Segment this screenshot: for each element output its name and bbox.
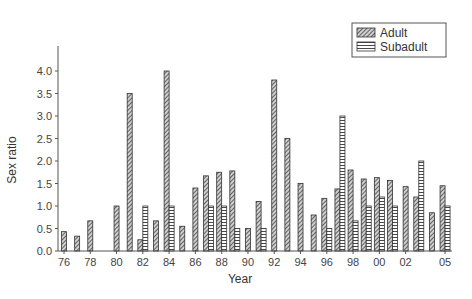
x-tick-label: 88 (216, 256, 228, 268)
y-tick-label: 2.5 (37, 133, 52, 145)
bar-adult-85 (180, 226, 185, 251)
bar-adult-96 (322, 198, 327, 251)
x-tick-label: 84 (163, 256, 175, 268)
bar-subadult-96 (327, 229, 332, 252)
bar-subadult-01 (393, 206, 398, 251)
legend-adult-swatch (357, 28, 375, 37)
bar-adult-00 (374, 178, 379, 251)
y-tick-label: 1.5 (37, 178, 52, 190)
bar-adult-76 (62, 232, 67, 251)
y-tick-label: 3.0 (37, 110, 52, 122)
bar-adult-01 (388, 180, 393, 251)
bar-adult-82 (138, 240, 143, 251)
sex-ratio-bar-chart: 0.00.51.01.52.02.53.03.54.07678808284868… (0, 0, 472, 299)
x-tick-label: 02 (400, 256, 412, 268)
bar-adult-02 (403, 187, 408, 251)
bar-adult-94 (298, 184, 303, 252)
y-axis-title: Sex ratio (5, 136, 19, 184)
bar-subadult-98 (353, 221, 358, 251)
legend-subadult-swatch (357, 42, 375, 51)
x-tick-label: 96 (321, 256, 333, 268)
bar-subadult-05 (445, 206, 450, 251)
bar-adult-91 (256, 202, 261, 252)
bar-adult-92 (272, 80, 277, 251)
y-tick-label: 0.0 (37, 245, 52, 257)
bar-adult-84 (164, 71, 169, 251)
bar-adult-89 (230, 171, 235, 251)
x-tick-label: 00 (373, 256, 385, 268)
bar-adult-98 (348, 170, 353, 251)
bar-subadult-03 (419, 161, 424, 251)
x-tick-label: 78 (84, 256, 96, 268)
x-tick-label: 90 (242, 256, 254, 268)
bar-adult-90 (245, 229, 250, 252)
y-tick-label: 3.5 (37, 88, 52, 100)
x-tick-label: 92 (268, 256, 280, 268)
bar-adult-03 (414, 197, 419, 251)
bar-subadult-97 (340, 116, 345, 251)
x-tick-label: 94 (294, 256, 306, 268)
legend-subadult-label: Subadult (380, 40, 428, 54)
bar-adult-97 (335, 189, 340, 251)
x-tick-label: 76 (58, 256, 70, 268)
y-tick-label: 1.0 (37, 200, 52, 212)
legend: Adult Subadult (352, 23, 446, 57)
bar-adult-81 (127, 94, 132, 252)
x-tick-label: 86 (189, 256, 201, 268)
bar-adult-88 (217, 172, 222, 251)
bar-adult-05 (440, 186, 445, 251)
bar-adult-99 (361, 179, 366, 251)
bar-subadult-99 (366, 206, 371, 251)
plot-area (62, 71, 451, 251)
bar-adult-78 (88, 221, 93, 251)
bar-subadult-88 (222, 206, 227, 251)
x-axis-title: Year (228, 272, 252, 286)
y-tick-label: 2.0 (37, 155, 52, 167)
bar-adult-86 (193, 188, 198, 251)
x-tick-label: 80 (110, 256, 122, 268)
bar-adult-77 (75, 236, 80, 251)
bar-subadult-82 (143, 206, 148, 251)
bar-subadult-00 (379, 197, 384, 251)
bar-adult-83 (153, 221, 158, 251)
x-tick-label: 98 (347, 256, 359, 268)
legend-adult-label: Adult (380, 26, 408, 40)
x-tick-label: 82 (137, 256, 149, 268)
bar-adult-80 (114, 206, 119, 251)
bar-subadult-84 (169, 206, 174, 251)
bar-subadult-89 (235, 229, 240, 252)
bar-subadult-87 (209, 206, 214, 251)
bar-adult-04 (429, 213, 434, 251)
bar-subadult-91 (261, 229, 266, 252)
bar-adult-95 (311, 215, 316, 251)
bar-adult-87 (204, 176, 209, 251)
y-tick-label: 4.0 (37, 65, 52, 77)
bar-adult-93 (285, 139, 290, 252)
y-tick-label: 0.5 (37, 223, 52, 235)
x-tick-label: 05 (439, 256, 451, 268)
